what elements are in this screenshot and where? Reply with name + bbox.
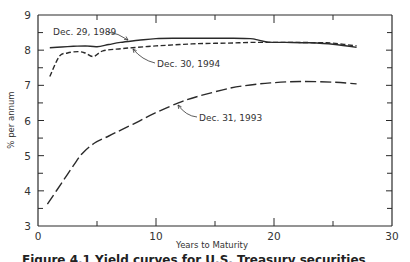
y-tick-label: 5 <box>24 150 31 162</box>
figure-caption: Figure 4.1 Yield curves for U.S. Treasur… <box>22 253 366 262</box>
x-tick-label: 0 <box>35 230 42 242</box>
y-tick-label: 9 <box>24 9 31 21</box>
y-tick-label: 7 <box>24 79 31 91</box>
y-tick-label: 4 <box>24 185 31 197</box>
series-annotation-label: Dec. 30, 1994 <box>157 59 220 69</box>
x-tick-label: 20 <box>267 230 280 242</box>
y-tick-label: 3 <box>24 220 31 232</box>
y-axis-title: % per annum <box>6 91 16 148</box>
annotation-layer: Dec. 29, 1989Dec. 30, 1994Dec. 31, 1993 <box>53 27 262 123</box>
series-annotation-label: Dec. 31, 1993 <box>199 113 262 123</box>
x-axis-title: Years to Maturity <box>175 240 248 250</box>
x-tick-label: 10 <box>149 230 162 242</box>
yield-curve-chart: 01020303456789 Years to Maturity % per a… <box>0 0 410 262</box>
y-tick-label: 6 <box>24 115 31 127</box>
series-annotation-label: Dec. 29, 1989 <box>53 27 116 37</box>
y-tick-label: 8 <box>24 44 31 56</box>
annotation-arrow-icon <box>133 49 155 63</box>
series-line-dec-31-1993 <box>47 81 356 204</box>
x-tick-label: 30 <box>385 230 398 242</box>
